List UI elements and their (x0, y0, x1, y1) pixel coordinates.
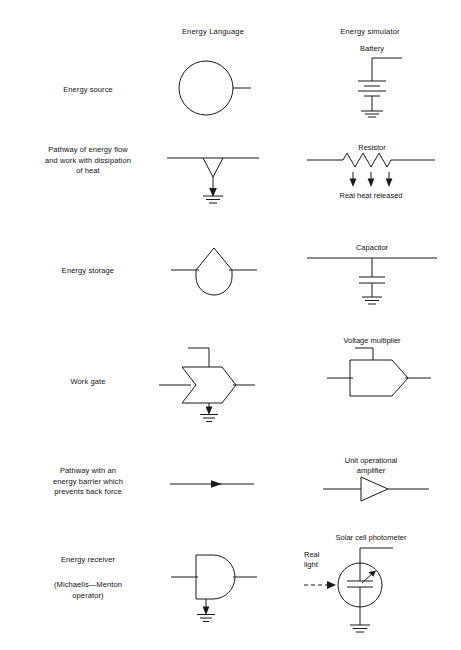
symbol-resistor-with-heat-arrows (305, 152, 440, 194)
symbol-circle-source (175, 57, 255, 119)
symbol-solar-cell-photometer (300, 545, 440, 645)
caption-real-heat-released: Real heat released (340, 191, 403, 201)
energy-symbol-comparison-figure: Energy Language Energy simulator Energy … (0, 0, 461, 650)
caption-solar-cell-photometer: Solar cell photometer (336, 533, 407, 543)
row-label-work-gate: Work gate (13, 377, 163, 388)
caption-capacitor: Capacitor (356, 243, 388, 253)
column-header-energy-language: Energy Language (182, 27, 244, 36)
symbol-heat-sink-pathway (165, 150, 265, 206)
row-label-line: and work with dissipation (3, 156, 173, 167)
symbol-battery-to-ground (330, 55, 420, 123)
row-label-pathway-dissipation: Pathway of energy flow and work with dis… (3, 145, 173, 177)
symbol-work-gate (155, 345, 265, 425)
symbol-receiver-bullet (165, 543, 265, 631)
column-header-energy-simulator: Energy simulator (340, 27, 399, 36)
row-label-energy-receiver: Energy receiver (13, 555, 163, 566)
symbol-storage-tank (165, 243, 265, 303)
heat-arrow-group (350, 172, 393, 187)
symbol-one-way-arrow-line (168, 476, 258, 492)
row-label-line: operator) (3, 591, 173, 602)
row-label-energy-storage: Energy storage (13, 266, 163, 277)
row-label-michaelis-menton-operator: (Michaelis—Menton operator) (3, 580, 173, 601)
row-label-line: energy barrier which (3, 477, 173, 488)
row-label-energy-source: Energy source (13, 85, 163, 96)
row-label-line: prevents back force (3, 487, 173, 498)
caption-battery: Battery (360, 44, 384, 54)
row-label-line: (Michaelis—Menton (3, 580, 173, 591)
row-label-line: of heat (3, 166, 173, 177)
symbol-operational-amplifier-triangle (305, 472, 440, 506)
caption-voltage-multiplier: Voltage multiplier (343, 336, 400, 346)
symbol-voltage-multiplier-pentagon (305, 348, 440, 400)
row-label-line: Pathway of energy flow (3, 145, 173, 156)
caption-line: Unit operational (345, 456, 398, 466)
symbol-capacitor-to-ground (305, 253, 440, 309)
row-label-line: Pathway with an (3, 466, 173, 477)
row-label-energy-barrier-pathway: Pathway with an energy barrier which pre… (3, 466, 173, 498)
